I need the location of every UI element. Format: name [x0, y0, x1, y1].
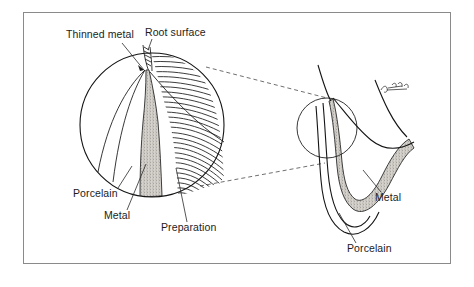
label-thinned-metal: Thinned metal — [66, 28, 134, 40]
leader-porcelain-right — [339, 213, 356, 243]
artist-signature-mark — [381, 83, 408, 93]
tooth-outline-occlusal — [333, 98, 414, 149]
label-root-surface: Root surface — [145, 26, 206, 38]
label-preparation: Preparation — [161, 221, 216, 233]
figure-page: Thinned metal Root surface Porcelain Met… — [0, 0, 474, 287]
tooth-outline-outer — [316, 106, 379, 234]
magnified-detail-circle — [80, 45, 240, 205]
tooth-cusp-line — [318, 65, 331, 101]
detail-marker-circle — [297, 98, 357, 158]
tooth-metal-band — [329, 99, 414, 212]
dental-crown-diagram: Thinned metal Root surface Porcelain Met… — [0, 0, 474, 287]
label-porcelain-left: Porcelain — [73, 187, 118, 199]
label-porcelain-right: Porcelain — [347, 242, 392, 254]
leader-metal-right — [363, 170, 381, 192]
tooth-root-line — [375, 80, 407, 137]
label-metal-right: Metal — [375, 191, 401, 203]
tooth-cross-section — [297, 65, 414, 234]
upper-magnification-dashed-line — [206, 67, 327, 98]
label-metal-left: Metal — [104, 209, 130, 221]
